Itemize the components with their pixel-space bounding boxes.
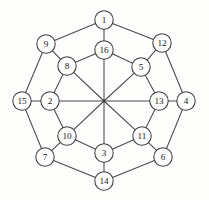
- graph-node-15[interactable]: 15: [13, 92, 31, 110]
- edge-2-8: [54, 74, 63, 92]
- graph-node-4[interactable]: 4: [177, 92, 195, 110]
- node-label-10: 10: [62, 131, 72, 141]
- edge-6-11: [149, 143, 157, 151]
- edge-13-11: [146, 109, 155, 127]
- graph-node-1[interactable]: 1: [95, 11, 113, 29]
- edge-11-3: [112, 140, 133, 149]
- graph-canvas: 11246147159165131131028: [0, 0, 209, 200]
- node-label-9: 9: [44, 39, 49, 49]
- edge-12-5: [147, 50, 156, 60]
- hub-center-point: [103, 100, 106, 103]
- graph-node-5[interactable]: 5: [132, 58, 150, 76]
- edge-3-10: [75, 140, 95, 149]
- node-label-4: 4: [184, 96, 189, 106]
- node-label-11: 11: [138, 131, 147, 141]
- edge-1-12: [113, 23, 154, 39]
- graph-figure: 11246147159165131131028: [0, 0, 209, 200]
- node-label-5: 5: [139, 62, 144, 72]
- graph-node-8[interactable]: 8: [58, 57, 76, 75]
- node-label-2: 2: [48, 96, 53, 106]
- graph-node-13[interactable]: 13: [150, 92, 168, 110]
- edge-6-14: [113, 160, 155, 177]
- hub-point-layer: [103, 100, 106, 103]
- node-label-1: 1: [102, 15, 107, 25]
- node-label-12: 12: [157, 38, 167, 48]
- graph-node-11[interactable]: 11: [133, 127, 151, 145]
- edge-15-9: [26, 52, 43, 92]
- edge-10-2: [54, 109, 63, 127]
- node-label-15: 15: [17, 96, 27, 106]
- hub-spoke-11: [104, 101, 135, 130]
- edge-7-10: [52, 142, 61, 150]
- graph-node-12[interactable]: 12: [153, 34, 171, 52]
- graph-node-9[interactable]: 9: [37, 35, 55, 53]
- graph-node-6[interactable]: 6: [154, 148, 172, 166]
- edge-4-6: [167, 110, 183, 149]
- node-label-16: 16: [99, 45, 109, 55]
- graph-node-10[interactable]: 10: [58, 127, 76, 145]
- graph-node-7[interactable]: 7: [36, 148, 54, 166]
- node-label-14: 14: [99, 176, 109, 186]
- edge-7-15: [26, 110, 42, 149]
- node-label-8: 8: [65, 61, 70, 71]
- graph-node-2[interactable]: 2: [41, 92, 59, 110]
- graph-node-14[interactable]: 14: [95, 172, 113, 190]
- edge-14-7: [54, 160, 96, 177]
- edge-5-13: [145, 75, 154, 93]
- node-label-13: 13: [154, 96, 164, 106]
- node-label-6: 6: [161, 152, 166, 162]
- graph-node-3[interactable]: 3: [95, 144, 113, 162]
- hub-spoke-10: [74, 101, 104, 130]
- node-label-7: 7: [43, 152, 48, 162]
- edge-9-1: [55, 24, 96, 41]
- edge-12-4: [166, 52, 183, 93]
- edge-8-16: [75, 54, 95, 63]
- edge-9-8: [52, 51, 60, 60]
- graph-node-16[interactable]: 16: [95, 41, 113, 59]
- hub-spoke-5: [104, 73, 134, 101]
- node-label-3: 3: [102, 148, 107, 158]
- edge-16-5: [112, 54, 132, 63]
- hub-spoke-8: [74, 72, 104, 101]
